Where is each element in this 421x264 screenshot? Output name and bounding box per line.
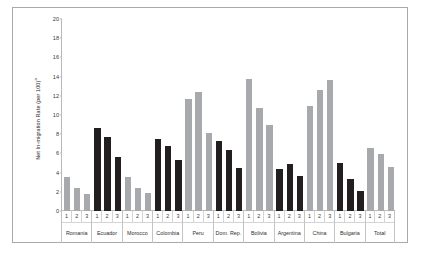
y-axis-title-superscript: a bbox=[33, 78, 38, 80]
category-label-china: China bbox=[305, 223, 334, 243]
bar bbox=[287, 164, 293, 211]
subcategory-label: 2 bbox=[163, 211, 173, 222]
bar bbox=[307, 106, 313, 211]
category-cell-china: 123China bbox=[304, 211, 334, 243]
subcategory-row: 123 bbox=[366, 211, 394, 223]
bar bbox=[115, 157, 121, 211]
category-cell-ecuador: 123Ecuador bbox=[91, 211, 121, 243]
subcategory-label: 2 bbox=[133, 211, 143, 222]
bar-group-romania bbox=[62, 19, 92, 211]
bar bbox=[74, 188, 80, 211]
subcategory-label: 2 bbox=[102, 211, 112, 222]
category-cell-peru: 123Peru bbox=[182, 211, 212, 243]
category-cell-dom-rep: 123Dom. Rep. bbox=[213, 211, 243, 243]
subcategory-label: 3 bbox=[234, 211, 243, 222]
bar bbox=[195, 92, 201, 211]
bar-group-china bbox=[305, 19, 335, 211]
y-axis-title: Net In-migration Rate (per 100)a bbox=[29, 21, 43, 217]
bar bbox=[388, 167, 394, 211]
subcategory-label: 2 bbox=[375, 211, 385, 222]
category-label-bolivia: Bolivia bbox=[244, 223, 273, 243]
subcategory-label: 3 bbox=[113, 211, 122, 222]
subcategory-label: 1 bbox=[62, 211, 72, 222]
bar-group-ecuador bbox=[92, 19, 122, 211]
bar bbox=[317, 90, 323, 211]
subcategory-label: 3 bbox=[143, 211, 152, 222]
bar bbox=[367, 148, 373, 211]
bar-group-bulgaria bbox=[335, 19, 365, 211]
bar bbox=[206, 133, 212, 211]
subcategory-label: 1 bbox=[92, 211, 102, 222]
bar bbox=[64, 177, 70, 211]
category-label-dom-rep: Dom. Rep. bbox=[214, 223, 243, 243]
bar-group-colombia bbox=[153, 19, 183, 211]
bar bbox=[266, 125, 272, 211]
subcategory-row: 123 bbox=[305, 211, 334, 223]
subcategory-label: 3 bbox=[82, 211, 91, 222]
chart-frame: Net In-migration Rate (per 100)a 0246810… bbox=[12, 7, 408, 243]
category-cell-total: 123Total bbox=[365, 211, 395, 243]
subcategory-label: 2 bbox=[315, 211, 325, 222]
bar-group-bolivia bbox=[244, 19, 274, 211]
category-cell-bulgaria: 123Bulgaria bbox=[334, 211, 364, 243]
subcategory-label: 2 bbox=[224, 211, 234, 222]
bar bbox=[357, 191, 363, 211]
bar bbox=[378, 154, 384, 211]
category-label-bulgaria: Bulgaria bbox=[335, 223, 364, 243]
bar bbox=[135, 188, 141, 211]
subcategory-label: 3 bbox=[325, 211, 334, 222]
subcategory-label: 2 bbox=[194, 211, 204, 222]
category-label-morocco: Morocco bbox=[123, 223, 152, 243]
bar bbox=[165, 146, 171, 211]
bar-series-container bbox=[62, 19, 395, 211]
subcategory-row: 123 bbox=[92, 211, 121, 223]
category-cell-colombia: 123Colombia bbox=[152, 211, 182, 243]
subcategory-label: 1 bbox=[183, 211, 193, 222]
bar bbox=[226, 150, 232, 211]
subcategory-label: 2 bbox=[345, 211, 355, 222]
category-cell-morocco: 123Morocco bbox=[122, 211, 152, 243]
subcategory-label: 1 bbox=[123, 211, 133, 222]
subcategory-row: 123 bbox=[153, 211, 182, 223]
bar bbox=[246, 79, 252, 211]
bar bbox=[104, 137, 110, 211]
plot-area: 02468101214161820 bbox=[61, 19, 395, 211]
bar bbox=[175, 160, 181, 211]
bar bbox=[236, 168, 242, 211]
subcategory-label: 1 bbox=[275, 211, 285, 222]
bar-group-peru bbox=[183, 19, 213, 211]
bar bbox=[337, 163, 343, 211]
subcategory-row: 123 bbox=[275, 211, 304, 223]
subcategory-label: 3 bbox=[385, 211, 394, 222]
category-label-romania: Romania bbox=[62, 223, 91, 243]
bar-group-total bbox=[366, 19, 396, 211]
subcategory-label: 3 bbox=[173, 211, 182, 222]
subcategory-row: 123 bbox=[123, 211, 152, 223]
category-axis-labels: 123Romania123Ecuador123Morocco123Colombi… bbox=[61, 211, 395, 243]
bar bbox=[185, 99, 191, 211]
category-cell-romania: 123Romania bbox=[61, 211, 91, 243]
subcategory-label: 3 bbox=[355, 211, 364, 222]
bar bbox=[145, 193, 151, 211]
category-cell-argentina: 123Argentina bbox=[274, 211, 304, 243]
bar-group-argentina bbox=[275, 19, 305, 211]
bar bbox=[327, 80, 333, 211]
bar bbox=[297, 176, 303, 211]
subcategory-label: 3 bbox=[264, 211, 273, 222]
subcategory-label: 3 bbox=[295, 211, 304, 222]
subcategory-row: 123 bbox=[244, 211, 273, 223]
subcategory-label: 1 bbox=[335, 211, 345, 222]
category-cell-bolivia: 123Bolivia bbox=[243, 211, 273, 243]
subcategory-label: 2 bbox=[254, 211, 264, 222]
subcategory-label: 1 bbox=[153, 211, 163, 222]
bar bbox=[256, 108, 262, 211]
subcategory-row: 123 bbox=[214, 211, 243, 223]
bar bbox=[276, 169, 282, 211]
y-axis-title-text: Net In-migration Rate (per 100) bbox=[35, 81, 41, 160]
bar bbox=[216, 141, 222, 211]
bar-group-dom-rep bbox=[214, 19, 244, 211]
category-label-peru: Peru bbox=[183, 223, 212, 243]
bar bbox=[155, 139, 161, 211]
subcategory-row: 123 bbox=[335, 211, 364, 223]
category-label-colombia: Colombia bbox=[153, 223, 182, 243]
